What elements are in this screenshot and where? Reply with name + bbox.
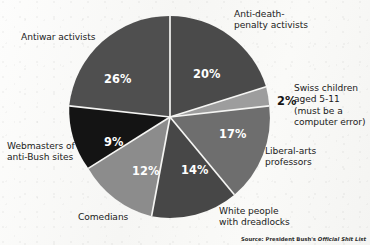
slice-value-14: 14% [181, 163, 209, 177]
source-title: Official Shit List [318, 236, 366, 242]
label-liberal-arts-line2: professors [265, 157, 316, 168]
label-swiss-children: Swiss children aged 5-11 (must be a comp… [294, 83, 366, 129]
label-antiwar-line1: Antiwar activists [21, 32, 95, 43]
label-comedians-line1: Comedians [78, 212, 128, 223]
label-dreadlocks-line2: with dreadlocks [219, 217, 290, 228]
label-webmasters-anti-bush: Webmasters of anti-Bush sites [7, 141, 75, 164]
chart-canvas: 20% 17% 14% 12% 9% 26% 2% Anti-death- pe… [0, 0, 370, 245]
label-anti-death-penalty-line2: penalty activists [234, 20, 308, 31]
label-anti-death-penalty-line1: Anti-death- [234, 9, 308, 20]
label-antiwar-activists: Antiwar activists [21, 32, 95, 43]
source-credit: Source: President Bush's Official Shit L… [241, 236, 366, 242]
slice-value-26: 26% [104, 72, 132, 86]
label-webmasters-line2: anti-Bush sites [7, 152, 75, 163]
slice-value-9: 9% [104, 135, 124, 149]
label-swiss-children-line4: computer error) [294, 117, 366, 128]
label-webmasters-line1: Webmasters of [7, 141, 75, 152]
pie-slices [69, 16, 270, 218]
label-liberal-arts-professors: Liberal-arts professors [265, 146, 316, 169]
label-anti-death-penalty: Anti-death- penalty activists [234, 9, 308, 32]
label-swiss-children-line1: Swiss children [294, 83, 366, 94]
label-liberal-arts-line1: Liberal-arts [265, 146, 316, 157]
label-dreadlocks-line1: White people [219, 206, 290, 217]
label-white-people-dreadlocks: White people with dreadlocks [219, 206, 290, 229]
label-swiss-children-line2: aged 5-11 [294, 94, 366, 105]
label-comedians: Comedians [78, 212, 128, 223]
slice-value-20: 20% [193, 67, 221, 81]
label-swiss-children-line3: (must be a [294, 106, 366, 117]
slice-value-12: 12% [132, 164, 160, 178]
slice-value-17: 17% [219, 127, 247, 141]
source-prefix: Source: President Bush's [241, 236, 318, 242]
